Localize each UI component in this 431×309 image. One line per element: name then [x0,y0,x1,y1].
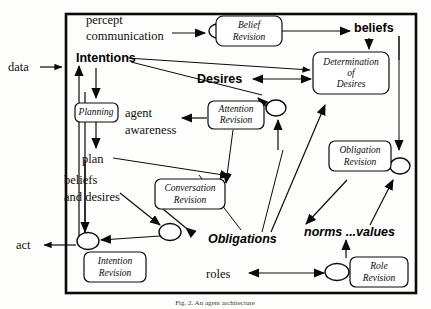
node-attention-revision[interactable]: Attention Revision [208,101,264,129]
figure-caption: Fig. 2. An agent architecture [175,299,255,307]
edge-conversation-junction-to-intention-junction [101,236,160,240]
node-belief-revision-label-1: Belief [238,20,262,30]
node-role-revision-label-2: Revision [362,273,396,283]
label-act: act [16,238,31,252]
junction-conversation [159,224,181,241]
node-belief-revision[interactable]: Belief Revision [216,16,282,46]
figure-container: Belief Revision Determination of Desires… [0,0,431,309]
label-plan: plan [82,152,104,166]
label-percept: percept [86,13,123,27]
edge-norms-to-obligation-junction [370,180,393,225]
node-determination-label-3: Desires [336,79,366,89]
node-determination-of-desires[interactable]: Determination of Desires [313,52,389,94]
node-planning[interactable]: Planning [75,103,118,122]
edge-obligation-revision-to-norms [306,180,347,224]
label-agent: agent [125,106,153,120]
agent-architecture-diagram: Belief Revision Determination of Desires… [0,0,431,309]
edge-plan-to-conversation-area [113,158,230,176]
node-role-revision[interactable]: Role Revision [350,257,408,287]
label-intentions: Intentions [76,51,136,65]
node-conversation-revision-label-2: Revision [173,195,207,205]
node-attention-revision-label-2: Revision [219,115,253,125]
node-obligation-revision-label-1: Obligation [339,145,380,155]
edge-obligations-to-attention-junction [262,150,283,232]
label-desires: Desires [197,72,242,86]
label-roles: roles [206,267,230,281]
junction-attention [266,100,286,116]
node-belief-revision-label-2: Revision [232,32,266,42]
junction-intention [77,233,99,250]
node-intention-revision[interactable]: Intention Revision [84,252,146,282]
label-and-desires: and desires [64,190,120,204]
label-awareness: awareness [125,123,176,137]
node-intention-revision-label-2: Revision [98,268,132,278]
node-role-revision-label-1: Role [369,261,387,271]
node-obligation-revision[interactable]: Obligation Revision [329,141,391,171]
junction-role [325,264,349,281]
node-intention-revision-label-1: Intention [97,256,133,266]
junction-obligation [390,158,410,174]
node-conversation-revision-label-1: Conversation [164,183,215,193]
label-beliefs-and: beliefs [64,173,97,187]
node-obligation-revision-label-2: Revision [343,157,377,167]
node-planning-label: Planning [78,107,114,117]
label-beliefs: beliefs [354,21,394,35]
label-data: data [8,60,29,74]
node-conversation-revision[interactable]: Conversation Revision [155,179,225,209]
node-attention-revision-label-1: Attention [218,104,254,114]
edge-beliefs-desires-to-junction [120,193,160,225]
node-determination-label-1: Determination [322,57,379,67]
label-obligations: Obligations [208,232,277,246]
label-norms-values: norms ...values [304,225,395,239]
label-communication: communication [86,29,165,43]
